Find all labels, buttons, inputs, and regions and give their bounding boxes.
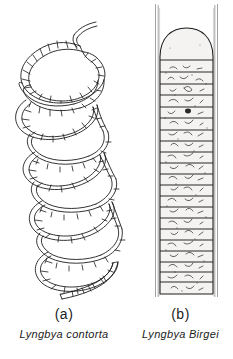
figure-a-letter: (a) (0, 305, 128, 323)
spiral-filament-drawing (0, 0, 140, 305)
helix-coil-2 (16, 80, 108, 142)
helix-outline (16, 22, 125, 299)
figure-lyngbya-birgei (140, 0, 233, 305)
caption-figure-a: (a) Lyngbya contorta (0, 305, 128, 342)
caption-row: (a) Lyngbya contorta (b) Lyngbya Birgei (0, 305, 233, 359)
illustration-plate: (a) Lyngbya contorta (b) Lyngbya Birgei (0, 0, 233, 359)
filament-apex-tip (73, 22, 97, 47)
figure-a-species-name: Lyngbya contorta (0, 326, 128, 342)
figure-lyngbya-contorta (0, 0, 140, 305)
straight-filament-drawing (140, 0, 233, 305)
caption-figure-b: (b) Lyngbya Birgei (128, 305, 233, 342)
figure-b-species-name: Lyngbya Birgei (128, 326, 233, 342)
figure-b-letter: (b) (128, 305, 233, 323)
helix-coil-3 (23, 131, 116, 192)
